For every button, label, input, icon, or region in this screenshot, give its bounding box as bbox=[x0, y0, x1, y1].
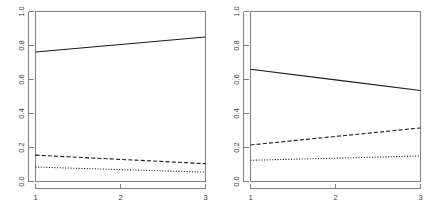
series-line-solid bbox=[36, 37, 206, 52]
y-tick-label: 0.0 bbox=[17, 176, 26, 186]
plot-svg-left: 0.00.20.40.60.81.0 123 bbox=[0, 0, 215, 222]
plot-svg-right: 0.00.20.40.60.81.0 123 bbox=[215, 0, 430, 222]
y-tick-label: 0.8 bbox=[17, 40, 26, 50]
y-axis-right: 0.00.20.40.60.81.0 bbox=[232, 6, 249, 186]
series-line-dotted bbox=[251, 156, 421, 160]
series-group-right bbox=[251, 69, 421, 160]
y-tick-label: 0.4 bbox=[17, 108, 26, 118]
x-axis-right: 123 bbox=[248, 184, 422, 203]
x-tick-label: 2 bbox=[333, 193, 337, 202]
x-tick-label: 1 bbox=[33, 193, 37, 202]
x-tick-label: 3 bbox=[418, 193, 422, 202]
chart-panel-left: 0.00.20.40.60.81.0 123 bbox=[0, 0, 215, 222]
plot-frame-right bbox=[251, 12, 421, 182]
series-line-dashed bbox=[251, 128, 421, 145]
x-axis-left: 123 bbox=[33, 184, 207, 203]
x-tick-label: 2 bbox=[118, 193, 122, 202]
y-tick-label: 0.6 bbox=[17, 74, 26, 84]
x-tick-label: 3 bbox=[203, 193, 207, 202]
series-line-solid bbox=[251, 69, 421, 90]
chart-panel-right: 0.00.20.40.60.81.0 123 bbox=[215, 0, 430, 222]
series-group-left bbox=[36, 37, 206, 172]
y-tick-label: 0.4 bbox=[232, 108, 241, 118]
y-tick-label: 0.0 bbox=[232, 176, 241, 186]
series-line-dashed bbox=[36, 155, 206, 164]
y-tick-label: 0.8 bbox=[232, 40, 241, 50]
y-tick-label: 1.0 bbox=[17, 6, 26, 16]
y-tick-label: 0.2 bbox=[17, 142, 26, 152]
x-tick-label: 1 bbox=[248, 193, 252, 202]
series-line-dotted bbox=[36, 167, 206, 172]
y-tick-label: 0.2 bbox=[232, 142, 241, 152]
y-tick-label: 1.0 bbox=[232, 6, 241, 16]
y-axis-left: 0.00.20.40.60.81.0 bbox=[17, 6, 34, 186]
figure-canvas: 0.00.20.40.60.81.0 123 0.00.20.40.60.81.… bbox=[0, 0, 430, 222]
y-tick-label: 0.6 bbox=[232, 74, 241, 84]
